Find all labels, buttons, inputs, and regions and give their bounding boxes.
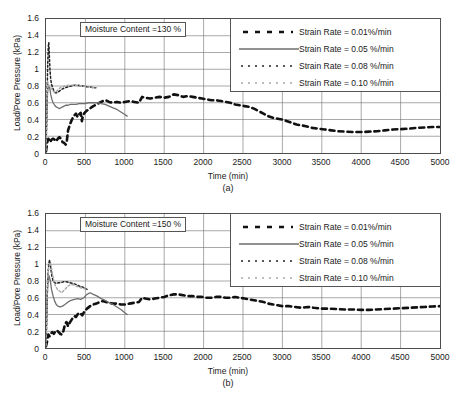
x-tick-a-9: 4500 <box>380 158 420 167</box>
legend-swatch-solid-a <box>237 43 299 55</box>
y-tick-b-6: 1.2 <box>5 243 39 252</box>
series-line-a-2 <box>46 42 96 151</box>
x-tick-b-3: 1500 <box>143 353 183 362</box>
x-tick-a-6: 3000 <box>262 158 302 167</box>
legend-row-b-2[interactable]: Strain Rate = 0.08 %/min <box>231 252 440 269</box>
x-tick-b-8: 4000 <box>341 353 381 362</box>
y-tick-b-5: 1 <box>5 260 39 269</box>
x-tick-b-4: 2000 <box>183 353 223 362</box>
y-tick-b-2: 0.4 <box>5 311 39 320</box>
chart-panel-a: Load/Pore Pressure (kPa) 1.6 1.4 1.2 1 0… <box>0 0 456 201</box>
legend-row-a-1[interactable]: Strain Rate = 0.05 %/min <box>231 40 440 57</box>
x-tick-a-3: 1500 <box>143 158 183 167</box>
legend-label-a-1: Strain Rate = 0.05 %/min <box>299 44 394 54</box>
legend-label-b-2: Strain Rate = 0.08 %/min <box>299 256 394 266</box>
legend-row-b-0[interactable]: Strain Rate = 0.01%/min <box>231 218 440 235</box>
legend-row-b-1[interactable]: Strain Rate = 0.05 %/min <box>231 235 440 252</box>
panel-caption-a: (a) <box>0 183 456 193</box>
legend-swatch-dotted-light-b <box>237 272 299 284</box>
legend-swatch-dashed-thick-b <box>237 221 299 233</box>
x-tick-a-0: 0 <box>25 158 65 167</box>
y-tick-b-8: 1.6 <box>5 209 39 218</box>
x-tick-b-1: 500 <box>64 353 104 362</box>
legend-label-b-3: Strain Rate = 0.10 %/min <box>299 273 394 283</box>
y-tick-a-4: 0.8 <box>5 82 39 91</box>
x-tick-a-10: 5000 <box>420 158 456 167</box>
y-tick-a-6: 1.2 <box>5 48 39 57</box>
annotation-box-b: Moisture Content =150 % <box>80 217 186 232</box>
x-tick-a-2: 1000 <box>104 158 144 167</box>
legend-row-a-0[interactable]: Strain Rate = 0.01%/min <box>231 23 440 40</box>
x-axis-title-b: Time (min) <box>0 366 456 376</box>
x-tick-a-4: 2000 <box>183 158 223 167</box>
y-tick-b-4: 0.8 <box>5 277 39 286</box>
figure-container: Load/Pore Pressure (kPa) 1.6 1.4 1.2 1 0… <box>0 0 456 402</box>
y-tick-a-1: 0.2 <box>5 133 39 142</box>
y-tick-a-2: 0.4 <box>5 116 39 125</box>
legend-b: Strain Rate = 0.01%/min Strain Rate = 0.… <box>230 213 441 287</box>
y-tick-b-3: 0.6 <box>5 294 39 303</box>
legend-label-b-1: Strain Rate = 0.05 %/min <box>299 239 394 249</box>
legend-row-b-3[interactable]: Strain Rate = 0.10 %/min <box>231 269 440 286</box>
x-tick-a-7: 3500 <box>301 158 341 167</box>
legend-row-a-2[interactable]: Strain Rate = 0.08 %/min <box>231 57 440 74</box>
x-tick-b-7: 3500 <box>301 353 341 362</box>
chart-panel-b: Load/Pore Pressure (kPa) 1.6 1.4 1.2 1 0… <box>0 195 456 396</box>
x-tick-b-2: 1000 <box>104 353 144 362</box>
legend-label-a-0: Strain Rate = 0.01%/min <box>299 27 391 37</box>
x-axis-title-a: Time (min) <box>0 171 456 181</box>
legend-label-a-2: Strain Rate = 0.08 %/min <box>299 61 394 71</box>
annotation-box-a: Moisture Content =130 % <box>80 22 186 37</box>
legend-swatch-dashed-thick-a <box>237 26 299 38</box>
x-tick-b-0: 0 <box>25 353 65 362</box>
x-tick-b-6: 3000 <box>262 353 302 362</box>
legend-swatch-dotted-a <box>237 60 299 72</box>
y-tick-a-3: 0.6 <box>5 99 39 108</box>
x-tick-a-8: 4000 <box>341 158 381 167</box>
x-tick-a-1: 500 <box>64 158 104 167</box>
legend-swatch-dotted-b <box>237 255 299 267</box>
legend-row-a-3[interactable]: Strain Rate = 0.10 %/min <box>231 74 440 91</box>
legend-swatch-dotted-light-a <box>237 77 299 89</box>
y-tick-a-7: 1.4 <box>5 31 39 40</box>
y-tick-b-1: 0.2 <box>5 328 39 337</box>
x-tick-b-5: 2500 <box>222 353 262 362</box>
legend-a: Strain Rate = 0.01%/min Strain Rate = 0.… <box>230 18 441 92</box>
panel-caption-b: (b) <box>0 378 456 388</box>
y-tick-b-7: 1.4 <box>5 226 39 235</box>
y-tick-a-5: 1 <box>5 65 39 74</box>
y-tick-a-8: 1.6 <box>5 14 39 23</box>
legend-label-b-0: Strain Rate = 0.01%/min <box>299 222 391 232</box>
x-tick-b-10: 5000 <box>420 353 456 362</box>
x-tick-b-9: 4500 <box>380 353 420 362</box>
legend-swatch-solid-b <box>237 238 299 250</box>
legend-label-a-3: Strain Rate = 0.10 %/min <box>299 78 394 88</box>
x-tick-a-5: 2500 <box>222 158 262 167</box>
